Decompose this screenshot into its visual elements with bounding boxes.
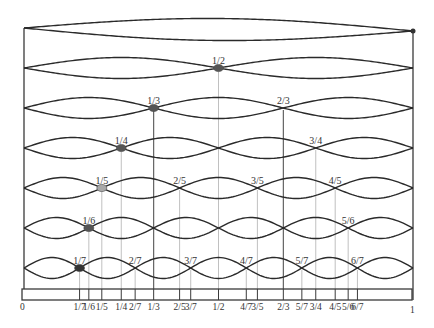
node-label-5-6: 5/6 [342, 215, 355, 226]
axis-label-1-3: 1/3 [148, 302, 160, 312]
node-marker-1-3 [149, 104, 159, 111]
node-marker-1-7 [75, 264, 85, 271]
node-label-2-5: 2/5 [173, 175, 186, 186]
number-line-bar [22, 289, 412, 300]
node-label-6-7: 6/7 [351, 255, 364, 266]
axis-label-5-7: 5/7 [296, 302, 308, 312]
axis-label-1-5: 1/5 [96, 302, 108, 312]
node-label-4-7: 4/7 [240, 255, 253, 266]
node-label-3-7: 3/7 [184, 255, 197, 266]
axis-label-start: 0 [20, 302, 25, 312]
node-label-3-5: 3/5 [251, 175, 264, 186]
node-marker-1-6 [84, 224, 94, 231]
axis-label-3-7: 3/7 [185, 302, 197, 312]
node-marker-1-5 [97, 184, 107, 191]
node-label-4-5: 4/5 [329, 175, 342, 186]
harmonic-1-envelope-lower [24, 28, 413, 41]
axis-label-4-5: 4/5 [329, 302, 341, 312]
node-label-3-4: 3/4 [309, 135, 322, 146]
axis-label-1-2: 1/2 [212, 302, 224, 312]
string-harmonics-figure: 1/21/32/31/43/41/52/53/54/51/65/61/72/73… [0, 0, 434, 328]
harmonics-diagram: 1/21/32/31/43/41/52/53/54/51/65/61/72/73… [0, 0, 434, 328]
axis-label-3-5: 3/5 [251, 302, 263, 312]
axis-label-1-6: 1/6 [83, 302, 95, 312]
node-label-2-3: 2/3 [277, 95, 290, 106]
endpoint-node-marker [411, 29, 416, 34]
axis-label-1-4: 1/4 [115, 302, 127, 312]
node-marker-1-4 [116, 144, 126, 151]
axis-label-2-7: 2/7 [129, 302, 141, 312]
harmonic-1-envelope-upper [24, 18, 413, 31]
axis-label-6-7: 6/7 [351, 302, 363, 312]
axis-label-end: 1 [410, 305, 415, 315]
axis-label-3-4: 3/4 [310, 302, 322, 312]
axis-label-2-3: 2/3 [277, 302, 289, 312]
node-marker-1-2 [214, 64, 224, 71]
node-label-5-7: 5/7 [295, 255, 308, 266]
node-label-2-7: 2/7 [129, 255, 142, 266]
